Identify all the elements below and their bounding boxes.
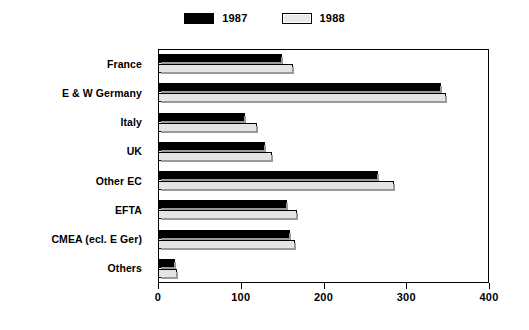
bar-1988-other-ec — [158, 181, 394, 190]
bar-1987-others — [158, 259, 175, 268]
y-axis-label: CMEA (ecl. E Ger) — [0, 225, 150, 254]
y-axis-category-labels: FranceE & W GermanyItalyUKOther ECEFTACM… — [0, 49, 150, 283]
x-axis-tick-label: 0 — [155, 291, 161, 303]
bar-group — [158, 166, 489, 195]
legend-label-1987: 1987 — [222, 13, 247, 24]
bar-1987-uk — [158, 142, 265, 151]
bar-group — [158, 78, 489, 107]
y-axis-label: Italy — [0, 108, 150, 137]
x-axis-tick — [241, 283, 242, 289]
bar-1988-france — [158, 64, 293, 73]
y-axis-label: France — [0, 49, 150, 78]
bar-1988-uk — [158, 152, 272, 161]
bar-1987-efta — [158, 200, 287, 209]
bar-1987-other-ec — [158, 171, 378, 180]
bar-1987-italy — [158, 113, 245, 122]
y-axis-label: UK — [0, 137, 150, 166]
legend-entry-1988: 1988 — [282, 13, 345, 24]
bar-group — [158, 225, 489, 254]
bar-groups — [158, 49, 489, 283]
bar-group — [158, 108, 489, 137]
chart-legend: 1987 1988 — [0, 13, 529, 24]
bar-1988-italy — [158, 123, 257, 132]
bar-1987-france — [158, 54, 282, 63]
x-axis-tick — [324, 283, 325, 289]
x-axis: 0100200300400 — [158, 283, 489, 313]
x-axis-tick — [406, 283, 407, 289]
bar-group — [158, 195, 489, 224]
x-axis-tick-label: 100 — [231, 291, 250, 303]
y-axis-label: Others — [0, 254, 150, 283]
legend-entry-1987: 1987 — [184, 13, 247, 24]
bar-chart: 1987 1988 FranceE & W GermanyItalyUKOthe… — [0, 0, 529, 330]
bar-group — [158, 137, 489, 166]
legend-swatch-1988-icon — [282, 13, 312, 24]
bar-1988-e-w-germany — [158, 93, 446, 102]
x-axis-tick — [489, 283, 490, 289]
bar-1987-e-w-germany — [158, 83, 441, 92]
bar-1988-cmea-ecl-e-ger — [158, 240, 295, 249]
bar-group — [158, 254, 489, 283]
y-axis-label: EFTA — [0, 195, 150, 224]
legend-label-1988: 1988 — [320, 13, 345, 24]
bar-1987-cmea-ecl-e-ger — [158, 230, 290, 239]
bar-1988-efta — [158, 210, 297, 219]
bar-1988-others — [158, 269, 177, 278]
y-axis-label: Other EC — [0, 166, 150, 195]
bar-group — [158, 49, 489, 78]
x-axis-tick-label: 200 — [314, 291, 333, 303]
y-axis-label: E & W Germany — [0, 78, 150, 107]
x-axis-tick-label: 400 — [480, 291, 499, 303]
x-axis-tick-label: 300 — [397, 291, 416, 303]
x-axis-tick — [158, 283, 159, 289]
legend-swatch-1987-icon — [184, 13, 214, 24]
